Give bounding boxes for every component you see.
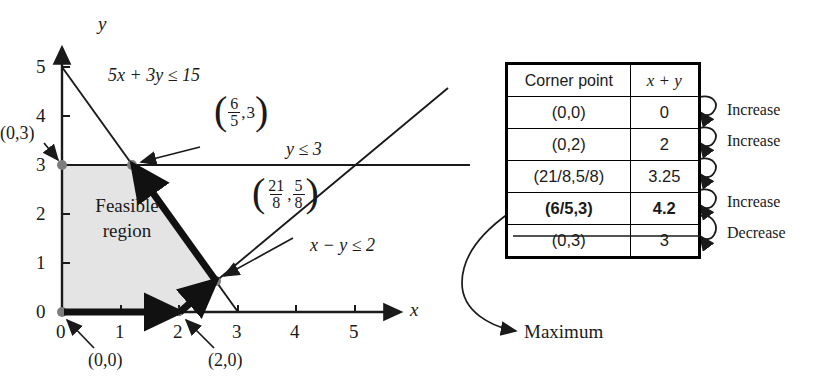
transition-label-4: Decrease bbox=[727, 224, 786, 242]
strikethrough-layer bbox=[0, 0, 825, 387]
transition-label-3: Increase bbox=[727, 193, 780, 211]
transition-label-2: Increase bbox=[727, 132, 780, 150]
maximum-annotation: Maximum bbox=[524, 321, 603, 343]
transition-label-1: Increase bbox=[727, 101, 780, 119]
figure-root: y x 5 4 3 2 1 0 0 1 2 3 4 5 5x + 3y ≤ 15… bbox=[0, 0, 825, 387]
